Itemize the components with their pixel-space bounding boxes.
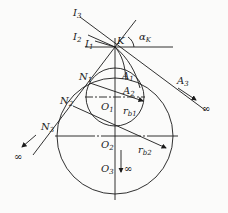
label-a1: A1 bbox=[121, 70, 134, 83]
label-i3: I3 bbox=[72, 7, 82, 20]
infinity-symbol-n3: ∞ bbox=[14, 151, 22, 162]
label-rb1: rb1 bbox=[123, 105, 137, 118]
radius-rb1 bbox=[90, 83, 143, 101]
angle-arc bbox=[128, 37, 134, 47]
label-n3: N3 bbox=[40, 121, 55, 134]
label-n1: N1 bbox=[78, 71, 92, 84]
radius-rb2 bbox=[73, 106, 166, 148]
diagram-canvas: I3 I2 I1 K αK N1 N2 N3 A1 A2 A3 O1 O2 O3… bbox=[0, 0, 228, 213]
infinity-symbol-o3: ∞ bbox=[124, 163, 132, 174]
label-a3: A3 bbox=[176, 75, 189, 88]
infinity-symbol-a3: ∞ bbox=[202, 103, 210, 114]
label-o1: O1 bbox=[101, 101, 114, 114]
arrow-a3-infinity bbox=[178, 88, 196, 100]
label-k: K bbox=[116, 35, 125, 46]
arrow-n3-infinity bbox=[22, 135, 36, 147]
involute-diagram: I3 I2 I1 K αK N1 N2 N3 A1 A2 A3 O1 O2 O3… bbox=[0, 0, 228, 213]
label-alpha-k: αK bbox=[139, 31, 152, 44]
label-o3: O3 bbox=[101, 163, 114, 176]
label-o2: O2 bbox=[101, 139, 114, 152]
label-rb2: rb2 bbox=[138, 144, 152, 157]
tangent-line-i1 bbox=[95, 41, 115, 47]
label-i2: I2 bbox=[72, 31, 82, 44]
label-i1: I1 bbox=[84, 38, 93, 51]
